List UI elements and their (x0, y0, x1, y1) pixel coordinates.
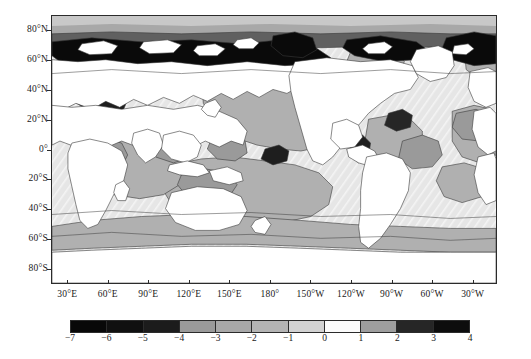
y-tick-label: 80°N (2, 25, 48, 35)
y-axis-labels: 80°N60°N40°N20°N0°20°S40°S60°S80°S (0, 15, 48, 284)
figure-canvas: 80°N60°N40°N20°N0°20°S40°S60°S80°S 30°E6… (0, 0, 531, 359)
x-tick-label: 180° (261, 290, 280, 300)
y-tick-label: 80°S (2, 264, 48, 274)
colorbar-tick-label: −2 (247, 334, 257, 344)
colorbar-tick-label: −3 (210, 334, 220, 344)
map-contour-field (52, 16, 496, 283)
colorbar-tick-label: 4 (468, 334, 473, 344)
colorbar-tick-label: 3 (431, 334, 436, 344)
x-tick-label: 90°E (138, 290, 158, 300)
colorbar-tick-label: 2 (395, 334, 400, 344)
colorbar-gradient (70, 320, 470, 333)
colorbar-band (397, 321, 433, 332)
x-tick-mark (189, 280, 190, 284)
colorbar-band (144, 321, 180, 332)
x-tick-mark (270, 280, 271, 284)
x-tick-mark (148, 280, 149, 284)
y-tick-label: 20°N (2, 115, 48, 125)
colorbar-tick-label: −5 (138, 334, 148, 344)
colorbar-tick-label: −1 (283, 334, 293, 344)
x-tick-label: 150°E (217, 290, 242, 300)
x-tick-label: 30°E (57, 290, 77, 300)
x-tick-label: 120°E (176, 290, 201, 300)
y-tick-label: 20°S (2, 174, 48, 184)
x-tick-label: 60°W (421, 290, 444, 300)
x-tick-label: 120°W (337, 290, 365, 300)
colorbar-band (434, 321, 469, 332)
colorbar-band (71, 321, 107, 332)
x-tick-mark (473, 280, 474, 284)
colorbar-tick-labels: −7−6−5−4−3−2−101234 (70, 334, 470, 346)
x-tick-mark (310, 280, 311, 284)
colorbar-band (361, 321, 397, 332)
x-tick-mark (392, 280, 393, 284)
colorbar-tick-label: −4 (174, 334, 184, 344)
colorbar-band (180, 321, 216, 332)
y-tick-label: 40°N (2, 85, 48, 95)
y-tick-label: 60°N (2, 55, 48, 65)
x-tick-mark (67, 280, 68, 284)
colorbar: −7−6−5−4−3−2−101234 (70, 320, 470, 333)
y-tick-label: 0° (2, 145, 48, 155)
colorbar-tick-label: −6 (101, 334, 111, 344)
colorbar-tick-label: 0 (322, 334, 327, 344)
colorbar-band (216, 321, 252, 332)
x-tick-label: 60°E (98, 290, 118, 300)
y-tick-label: 40°S (2, 204, 48, 214)
x-tick-mark (108, 280, 109, 284)
colorbar-tick-label: −7 (65, 334, 75, 344)
y-tick-label: 60°S (2, 234, 48, 244)
colorbar-band (107, 321, 143, 332)
y-axis-ticks (51, 15, 52, 284)
x-tick-mark (432, 280, 433, 284)
colorbar-tick-label: 1 (359, 334, 364, 344)
colorbar-band (325, 321, 361, 332)
x-tick-mark (351, 280, 352, 284)
map-plot-area (51, 15, 497, 284)
colorbar-band (252, 321, 288, 332)
x-tick-label: 30°W (461, 290, 484, 300)
x-tick-mark (229, 280, 230, 284)
x-tick-label: 90°W (380, 290, 403, 300)
colorbar-band (289, 321, 325, 332)
x-axis-labels: 30°E60°E90°E120°E150°E180°150°W120°W90°W… (51, 290, 497, 304)
x-tick-label: 150°W (296, 290, 324, 300)
x-axis-ticks (51, 284, 497, 285)
